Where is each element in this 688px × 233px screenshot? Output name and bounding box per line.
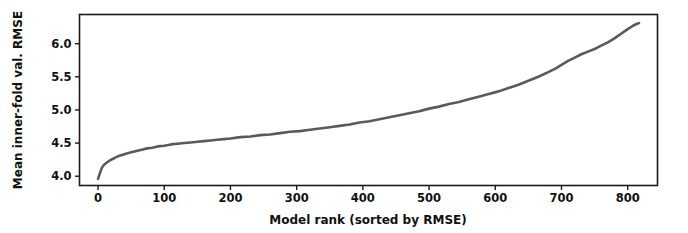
y-tick-label: 4.0 <box>51 169 71 183</box>
x-tick-label: 400 <box>351 191 375 205</box>
y-tick-label: 5.5 <box>51 70 71 84</box>
rmse-line-chart: 0100200300400500600700800 4.04.55.05.56.… <box>0 0 688 233</box>
chart-figure: 0100200300400500600700800 4.04.55.05.56.… <box>0 0 688 233</box>
x-tick-label: 0 <box>94 191 102 205</box>
x-tick-label: 800 <box>616 191 640 205</box>
x-axis-tick-labels: 0100200300400500600700800 <box>94 191 640 205</box>
x-tick-label: 700 <box>549 191 573 205</box>
x-tick-label: 100 <box>152 191 176 205</box>
y-tick-label: 6.0 <box>51 37 71 51</box>
x-tick-label: 500 <box>417 191 441 205</box>
x-tick-label: 200 <box>218 191 242 205</box>
x-tick-label: 600 <box>483 191 507 205</box>
y-tick-label: 4.5 <box>51 136 71 150</box>
y-axis-tick-labels: 4.04.55.05.56.0 <box>51 37 71 184</box>
rmse-data-line <box>98 23 639 179</box>
axes-frame <box>80 15 658 186</box>
y-tick-label: 5.0 <box>51 103 71 117</box>
x-axis-title: Model rank (sorted by RMSE) <box>269 213 466 227</box>
x-tick-label: 300 <box>285 191 309 205</box>
y-axis-title: Mean inner-fold val. RMSE <box>11 11 25 189</box>
